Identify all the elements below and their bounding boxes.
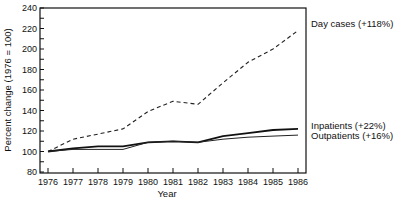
y-tick-label: 80 xyxy=(27,167,37,177)
y-tick-label: 100 xyxy=(22,147,37,157)
series-line-outpatients xyxy=(48,135,298,151)
x-axis: 1976197719781979198019811982198319841985… xyxy=(38,168,308,187)
series-line-day-cases xyxy=(48,31,298,152)
x-tick-label: 1986 xyxy=(288,177,308,187)
series-line-inpatients xyxy=(48,129,298,152)
y-tick-label: 160 xyxy=(22,85,37,95)
y-tick-label: 180 xyxy=(22,65,37,75)
series-label-day-cases: Day cases (+118%) xyxy=(311,18,393,29)
series-label-outpatients: Outpatients (+16%) xyxy=(311,130,393,141)
x-tick-label: 1979 xyxy=(113,177,133,187)
x-tick-label: 1982 xyxy=(188,177,208,187)
x-tick-label: 1984 xyxy=(238,177,258,187)
x-axis-label: Year xyxy=(157,188,176,199)
x-tick-label: 1980 xyxy=(138,177,158,187)
x-tick-label: 1978 xyxy=(88,177,108,187)
x-tick-label: 1981 xyxy=(163,177,183,187)
x-tick-label: 1983 xyxy=(213,177,233,187)
line-chart: 80100120140160180200220240 1976197719781… xyxy=(0,0,397,204)
y-tick-label: 120 xyxy=(22,126,37,136)
x-tick-label: 1977 xyxy=(63,177,83,187)
y-tick-label: 220 xyxy=(22,24,37,34)
series-lines xyxy=(48,31,298,152)
x-tick-label: 1976 xyxy=(38,177,58,187)
y-tick-label: 200 xyxy=(22,44,37,54)
y-tick-label: 140 xyxy=(22,106,37,116)
y-tick-label: 240 xyxy=(22,3,37,13)
y-axis-label: Percent change (1976 = 100) xyxy=(2,28,13,151)
y-axis: 80100120140160180200220240 xyxy=(22,3,44,177)
series-labels: Day cases (+118%)Inpatients (+22%)Outpat… xyxy=(311,18,393,141)
x-tick-label: 1985 xyxy=(263,177,283,187)
